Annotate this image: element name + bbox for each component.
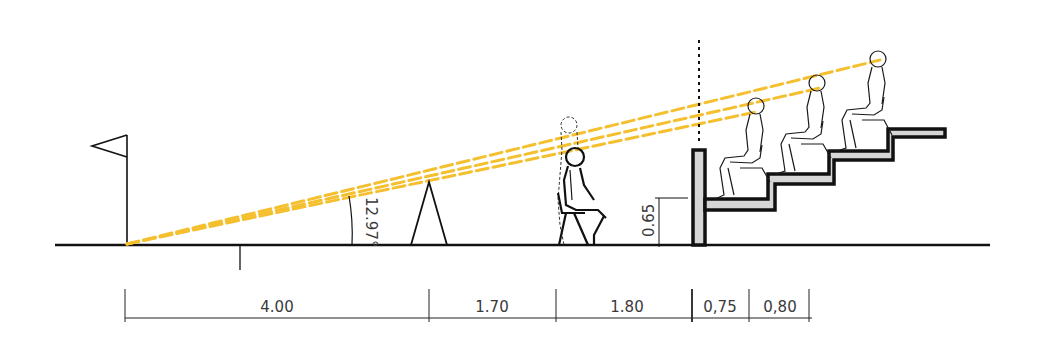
corner-flag-icon [92, 135, 127, 245]
spectator-1 [715, 98, 770, 199]
dimension-label-4: 0,80 [763, 298, 796, 316]
dimension-chain: 4.00 1.70 1.80 0,75 0,80 [125, 289, 812, 322]
dimension-label-0: 4.00 [260, 298, 293, 316]
dimension-label-3: 0,75 [703, 298, 736, 316]
dimension-label-2: 1.80 [610, 298, 643, 316]
height-label: 0.65 [640, 204, 658, 237]
spectator-2 [776, 75, 831, 174]
sightlines [127, 60, 880, 244]
stepped-terrace [705, 129, 945, 210]
barrier-wall [693, 150, 705, 245]
advertising-board-icon [411, 182, 447, 245]
dimension-label-1: 1.70 [475, 298, 508, 316]
stadium-sightline-diagram: 12.97° 0.65 [0, 0, 1041, 339]
angle-label: 12.97° [362, 197, 380, 247]
height-dimension: 0.65 [640, 198, 688, 247]
angle-indicator: 12.97° [349, 196, 380, 247]
spectator-3 [837, 51, 892, 151]
